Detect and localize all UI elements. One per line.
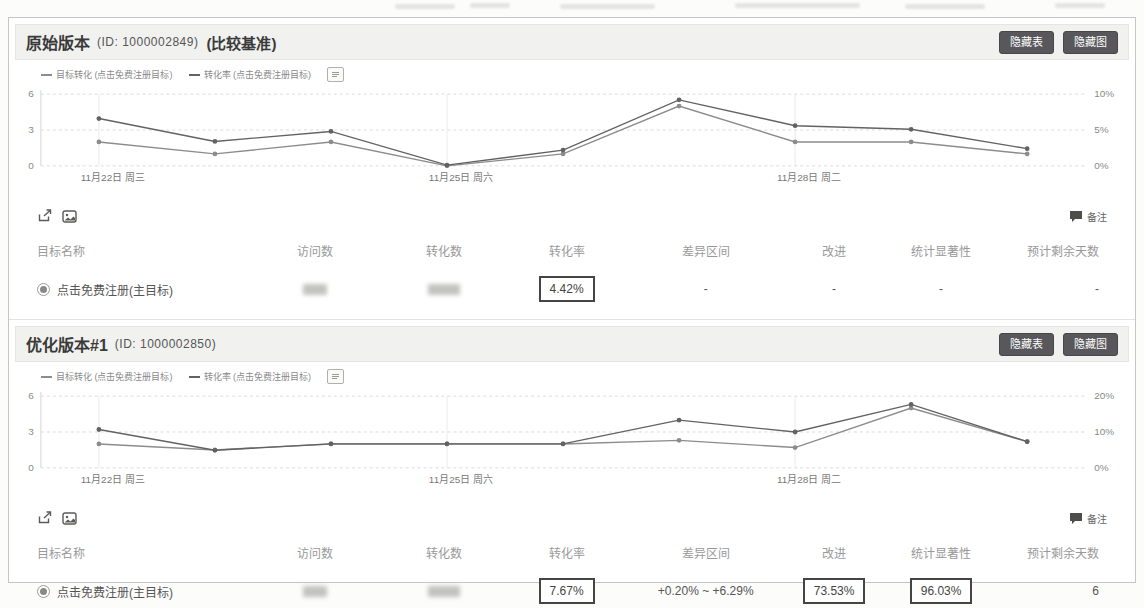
original-version-panel: 原始版本 (ID: 1000002849) (比较基准) 隐藏表 隐藏图 目标转… [9,24,1135,319]
rate-value: 4.42% [539,276,595,302]
goals-table: 目标名称 访问数 转化数 转化率 差异区间 改进 统计显著性 预计剩余天数 点击… [9,226,1135,317]
panel-header: 原始版本 (ID: 1000002849) (比较基准) 隐藏表 隐藏图 [15,24,1129,60]
legend-settings-icon[interactable] [327,369,344,384]
visits-cell [251,584,379,598]
svg-text:0%: 0% [1094,462,1109,473]
col-days-remaining: 预计剩余天数 [1000,544,1107,561]
hide-chart-button[interactable]: 隐藏图 [1063,333,1118,356]
rate-cell: 4.42% [508,276,626,302]
visits-cell [251,282,379,296]
hide-table-button[interactable]: 隐藏表 [999,333,1054,356]
diff-interval-cell: - [625,282,786,296]
series-color-dash [41,376,52,378]
svg-text:6: 6 [28,390,34,401]
conversions-cell [379,584,507,598]
panel-title: 优化版本#1 [26,332,108,356]
series-color-dash [189,376,200,378]
legend-label: 转化率 (点击免费注册目标) [204,370,312,383]
legend-settings-icon[interactable] [327,67,344,82]
legend-label: 目标转化 (点击免费注册目标) [56,370,173,383]
legend-item-conversions: 目标转化 (点击免费注册目标) [41,370,173,383]
col-goal-name: 目标名称 [37,544,251,561]
table-header-row: 目标名称 访问数 转化数 转化率 差异区间 改进 统计显著性 预计剩余天数 [37,534,1107,573]
legend-label: 目标转化 (点击免费注册目标) [56,68,173,81]
note-button[interactable]: 备注 [1069,209,1107,224]
optimized-version-panel: 优化版本#1 (ID: 1000002850) 隐藏表 隐藏图 目标转化 (点击… [9,319,1135,608]
series-color-dash [41,74,52,76]
radio-icon[interactable] [37,585,50,598]
days-remaining-cell: 6 [1000,584,1107,598]
significance-value: 96.03% [910,578,973,604]
save-image-icon[interactable] [62,512,77,525]
panel-header: 优化版本#1 (ID: 1000002850) 隐藏表 隐藏图 [15,326,1129,362]
col-rate: 转化率 [508,544,626,561]
svg-text:0: 0 [28,160,34,171]
hidden-value [303,284,327,295]
improvement-cell: - [786,282,882,296]
col-improvement: 改进 [786,242,882,259]
baseline-tag: (比较基准) [206,32,276,53]
significance-cell: - [882,282,1000,296]
svg-text:10%: 10% [1094,88,1114,99]
trend-chart-area: 目标转化 (点击免费注册目标) 转化率 (点击免费注册目标) 11月22日 周三… [11,368,1133,496]
col-rate: 转化率 [508,242,626,259]
rate-cell: 7.67% [508,578,626,604]
improvement-cell: 73.53% [786,578,882,604]
goal-name: 点击免费注册(主目标) [57,583,173,600]
comment-icon [1069,210,1083,222]
col-days-remaining: 预计剩余天数 [1000,242,1107,259]
chart-toolbar: 备注 [9,194,1135,226]
col-diff-interval: 差异区间 [625,242,786,259]
col-significance: 统计显著性 [882,544,1000,561]
chart-legend: 目标转化 (点击免费注册目标) 转化率 (点击免费注册目标) [41,369,344,384]
series-color-dash [189,74,200,76]
days-remaining-cell: - [1000,282,1107,296]
svg-text:11月25日 周六: 11月25日 周六 [429,172,493,183]
conversions-cell [379,282,507,296]
table-row: 点击免费注册(主目标) 4.42% - - - - [37,271,1107,307]
rate-value: 7.67% [539,578,595,604]
svg-text:20%: 20% [1094,390,1114,401]
col-significance: 统计显著性 [882,242,1000,259]
hide-table-button[interactable]: 隐藏表 [999,31,1054,54]
goals-table: 目标名称 访问数 转化数 转化率 差异区间 改进 统计显著性 预计剩余天数 点击… [9,528,1135,608]
hide-chart-button[interactable]: 隐藏图 [1063,31,1118,54]
svg-text:11月25日 周六: 11月25日 周六 [429,474,493,485]
note-button[interactable]: 备注 [1069,511,1107,526]
save-image-icon[interactable] [62,210,77,223]
svg-text:3: 3 [28,124,34,135]
share-icon[interactable] [37,209,52,223]
trend-chart-area: 目标转化 (点击免费注册目标) 转化率 (点击免费注册目标) 11月22日 周三… [11,66,1133,194]
svg-text:10%: 10% [1094,426,1114,437]
chart-legend: 目标转化 (点击免费注册目标) 转化率 (点击免费注册目标) [41,67,344,82]
cropped-page-top [0,0,1144,17]
panel-title: 原始版本 [26,30,90,54]
comment-icon [1069,512,1083,524]
col-goal-name: 目标名称 [37,242,251,259]
note-label: 备注 [1087,209,1107,224]
svg-text:11月22日 周三: 11月22日 周三 [81,474,145,485]
radio-icon[interactable] [37,283,50,296]
svg-text:11月22日 周三: 11月22日 周三 [81,172,145,183]
hidden-value [428,586,460,597]
svg-text:0: 0 [28,462,34,473]
col-visits: 访问数 [251,544,379,561]
legend-item-conversions: 目标转化 (点击免费注册目标) [41,68,173,81]
line-chart: 11月22日 周三11月25日 周六11月28日 周二00%310%620% [11,368,1133,496]
svg-text:3: 3 [28,426,34,437]
note-label: 备注 [1087,511,1107,526]
diff-interval-cell: +0.20% ~ +6.29% [625,584,786,598]
legend-label: 转化率 (点击免费注册目标) [204,68,312,81]
line-chart: 11月22日 周三11月25日 周六11月28日 周二00%35%610% [11,66,1133,194]
table-row: 点击免费注册(主目标) 7.67% +0.20% ~ +6.29% 73.53%… [37,573,1107,608]
share-icon[interactable] [37,511,52,525]
report-container: 原始版本 (ID: 1000002849) (比较基准) 隐藏表 隐藏图 目标转… [8,17,1136,583]
improvement-value: 73.53% [803,578,866,604]
svg-text:6: 6 [28,88,34,99]
goal-name: 点击免费注册(主目标) [57,281,173,298]
svg-text:11月28日 周二: 11月28日 周二 [777,474,841,485]
svg-text:11月28日 周二: 11月28日 周二 [777,172,841,183]
col-visits: 访问数 [251,242,379,259]
hidden-value [303,586,327,597]
panel-id: (ID: 1000002849) [97,35,198,49]
